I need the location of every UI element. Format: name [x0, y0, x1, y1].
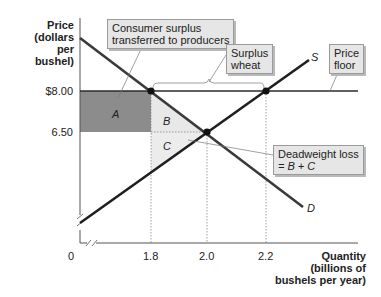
- price-floor-callout: Price floor: [329, 44, 364, 74]
- y-tick-6-50: 6.50: [30, 126, 73, 138]
- surplus-bracket: [153, 79, 264, 88]
- x-axis-label: Quantity (billions of bushels per year): [270, 250, 366, 286]
- x-tick-1-8: 1.8: [143, 250, 158, 262]
- deadweight-loss-callout: Deadweight loss = B + C: [273, 145, 364, 175]
- supply-label: S: [311, 51, 318, 63]
- demand-at-floor-point: [147, 87, 154, 94]
- y-tick-8: $8.00: [30, 85, 73, 97]
- x-tick-0: 0: [68, 250, 74, 262]
- demand-label: D: [307, 202, 315, 214]
- region-b-label: B: [163, 115, 170, 127]
- region-c-label: C: [163, 140, 171, 152]
- x-tick-2-0: 2.0: [199, 250, 214, 262]
- y-axis-label: Price (dollars per bushel): [20, 19, 74, 67]
- equilibrium-point: [203, 128, 210, 135]
- supply-at-floor-point: [262, 87, 269, 94]
- region-a-label: A: [112, 108, 119, 120]
- consumer-surplus-callout: Consumer surplus transferred to producer…: [107, 19, 234, 49]
- surplus-wheat-callout: Surplus wheat: [226, 44, 273, 74]
